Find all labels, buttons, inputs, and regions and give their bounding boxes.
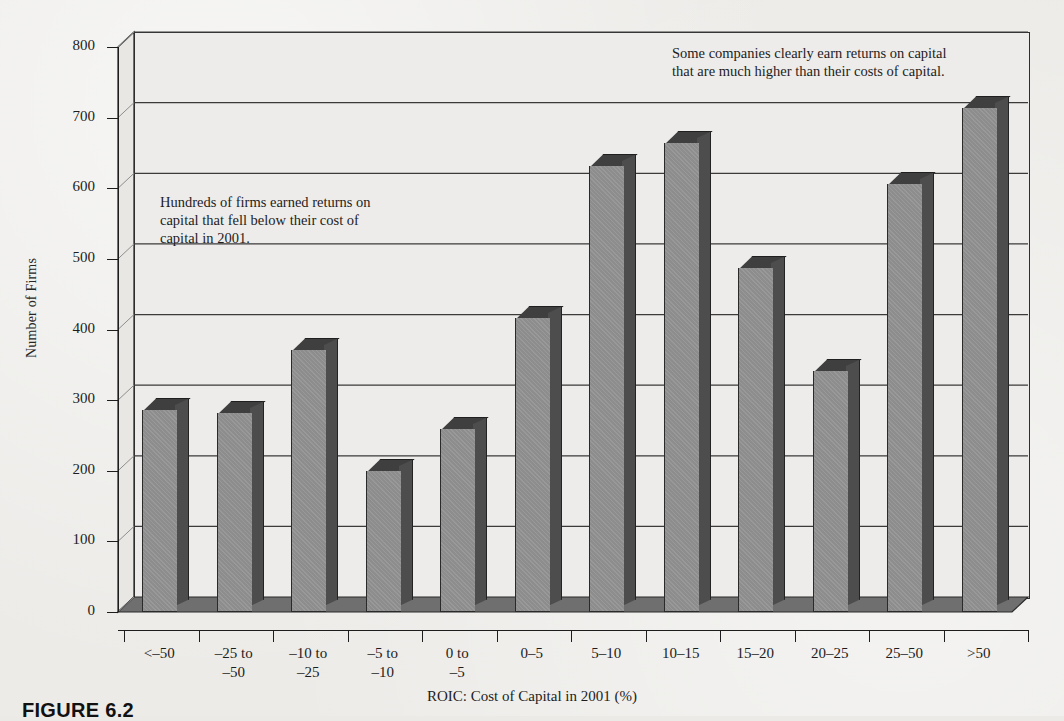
bar-column	[813, 372, 847, 612]
bar-column	[738, 269, 772, 612]
bar-front-face	[291, 350, 326, 612]
x-tick-mark	[199, 630, 200, 642]
annotation-line: that are much higher than their costs of…	[672, 62, 947, 80]
annotation-line: capital in 2001.	[160, 229, 371, 247]
bar-side-face	[399, 460, 413, 606]
x-tick-mark	[795, 630, 796, 642]
right-annotation: Some companies clearly earn returns on c…	[672, 44, 947, 80]
bar-column	[962, 109, 996, 612]
bar-side-face	[175, 398, 189, 606]
left-annotation: Hundreds of firms earned returns oncapit…	[160, 193, 371, 247]
annotation-line: capital that fell below their cost of	[160, 211, 371, 229]
bar-side-face	[771, 257, 785, 606]
y-tick-mark	[107, 330, 118, 331]
x-axis-line	[118, 630, 1028, 631]
y-tick-mark	[107, 612, 118, 613]
x-tick-mark	[124, 630, 125, 642]
bar-front-face	[589, 166, 624, 612]
bar-front-face	[217, 413, 252, 612]
y-tick-label: 0	[43, 602, 95, 619]
bar-side-face	[846, 359, 860, 606]
bar-front-face	[366, 471, 401, 612]
x-tick-mark	[571, 630, 572, 642]
x-tick-label: >50	[931, 644, 1027, 663]
bar-front-face	[515, 318, 550, 612]
y-axis-line	[118, 47, 119, 612]
bar-column	[217, 414, 251, 612]
bar-column	[440, 430, 474, 612]
bar-column	[589, 167, 623, 612]
x-tick-mark	[348, 630, 349, 642]
y-tick-label: 300	[43, 390, 95, 407]
bar-side-face	[622, 155, 636, 606]
bar-front-face	[887, 184, 922, 612]
y-tick-mark	[107, 259, 118, 260]
x-tick-mark	[944, 630, 945, 642]
y-tick-mark	[107, 400, 118, 401]
annotation-line: Hundreds of firms earned returns on	[160, 193, 371, 211]
bar-side-face	[995, 97, 1009, 606]
y-tick-mark	[107, 541, 118, 542]
x-tick-mark	[497, 630, 498, 642]
x-tick-mark	[869, 630, 870, 642]
y-tick-mark	[107, 188, 118, 189]
figure-caption: FIGURE 6.2	[22, 699, 134, 721]
x-tick-mark	[422, 630, 423, 642]
bar-column	[887, 185, 921, 612]
bar-column	[664, 144, 698, 612]
x-tick-mark	[1028, 630, 1029, 642]
bar-side-face	[920, 172, 934, 606]
y-tick-label: 500	[43, 249, 95, 266]
bar-side-face	[324, 338, 338, 606]
x-axis-title: ROIC: Cost of Capital in 2001 (%)	[0, 688, 1064, 705]
bar-column	[291, 351, 325, 612]
y-tick-mark	[107, 471, 118, 472]
x-tick-label-line: –5	[409, 663, 505, 682]
bar-column	[515, 319, 549, 612]
y-tick-label: 200	[43, 461, 95, 478]
x-tick-label-line: >50	[931, 644, 1027, 663]
bar-side-face	[697, 132, 711, 606]
bar-front-face	[813, 371, 848, 612]
y-tick-label: 100	[43, 531, 95, 548]
y-tick-mark	[107, 47, 118, 48]
bar-front-face	[664, 143, 699, 612]
bar-front-face	[142, 410, 177, 612]
x-tick-mark	[720, 630, 721, 642]
y-tick-label: 400	[43, 320, 95, 337]
y-tick-mark	[107, 118, 118, 119]
bar-column	[366, 472, 400, 612]
x-tick-mark	[646, 630, 647, 642]
y-tick-label: 800	[43, 37, 95, 54]
bar-column	[142, 411, 176, 612]
y-tick-label: 600	[43, 178, 95, 195]
y-tick-label: 700	[43, 108, 95, 125]
bar-front-face	[738, 268, 773, 612]
annotation-line: Some companies clearly earn returns on c…	[672, 44, 947, 62]
bar-front-face	[962, 108, 997, 612]
bar-side-face	[473, 417, 487, 606]
bar-side-face	[548, 306, 562, 606]
bar-side-face	[250, 402, 264, 606]
x-tick-mark	[273, 630, 274, 642]
bar-front-face	[440, 429, 475, 612]
